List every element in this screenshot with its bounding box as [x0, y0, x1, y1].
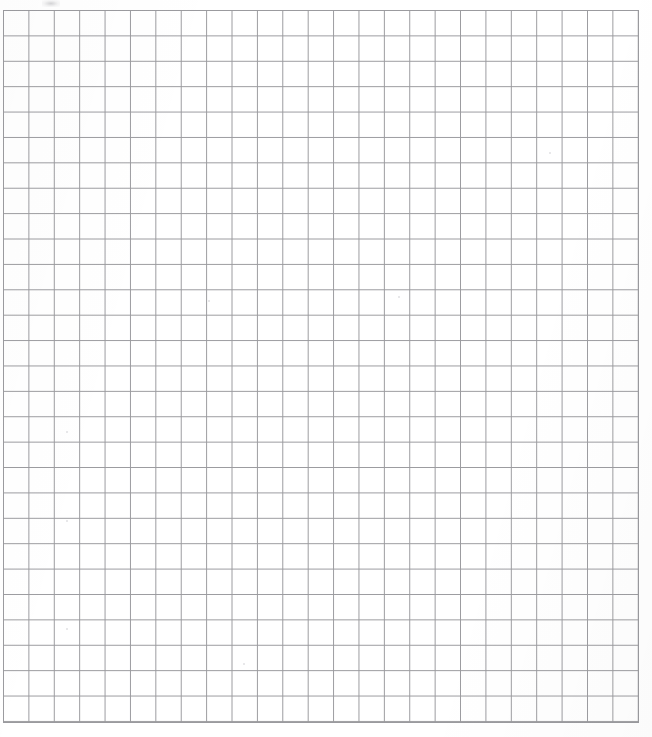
grid-right-edge-line: [638, 10, 639, 723]
page: Blank ruled grid (graph) paper, 25 colum…: [0, 0, 652, 737]
scan-smudge-artifact: [42, 0, 60, 7]
grid-bottom-edge-line: [3, 722, 639, 723]
page-description: Blank ruled grid (graph) paper, 25 colum…: [0, 0, 1, 1]
grid-paper-sheet: [3, 10, 638, 722]
